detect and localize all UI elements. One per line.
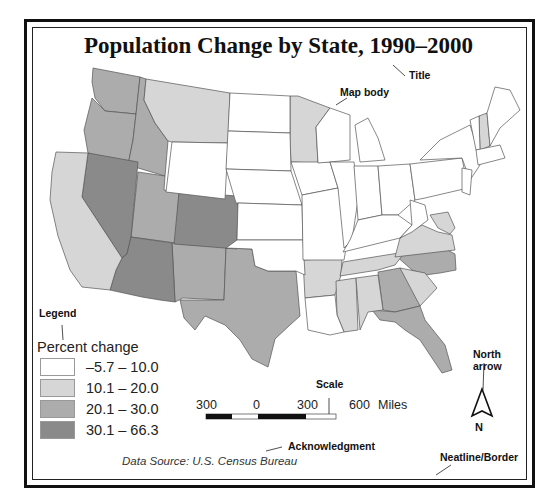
legend-title: Percent change	[37, 339, 139, 355]
scale-unit: Miles	[378, 398, 407, 412]
state-michigan	[355, 118, 385, 162]
callout-legend: Legend	[39, 307, 76, 319]
state-nebraska	[226, 169, 302, 205]
state-florida	[372, 306, 452, 373]
state-new-mexico	[172, 243, 226, 302]
state-north-dakota	[228, 93, 290, 133]
state-new-jersey	[462, 168, 472, 195]
state-alabama	[356, 275, 383, 330]
state-colorado	[174, 192, 238, 249]
state-kansas	[237, 203, 303, 240]
state-ohio	[378, 164, 415, 215]
callout-north-line2: arrow	[473, 360, 502, 372]
legend-item: –5.7 – 10.0	[40, 357, 159, 376]
legend-label: 20.1 – 30.0	[86, 401, 159, 417]
callout-neatline: Neatline/Border	[440, 451, 518, 463]
north-arrow-icon	[472, 389, 492, 416]
legend-label: 10.1 – 20.0	[86, 380, 159, 396]
state-maine	[487, 87, 520, 146]
legend-swatch	[40, 400, 75, 418]
state-south-dakota	[226, 131, 291, 171]
legend-swatch	[40, 379, 75, 397]
legend-swatch	[40, 421, 75, 439]
scale-tick: 0	[253, 398, 260, 412]
scale-bar	[206, 414, 336, 419]
scale-tick: 300	[196, 398, 217, 412]
legend-swatch	[40, 358, 75, 376]
legend-label: 30.1 – 66.3	[86, 422, 159, 438]
callout-map-body: Map body	[340, 86, 389, 98]
scale-tick: 600	[349, 398, 370, 412]
data-source: Data Source: U.S. Census Bureau	[122, 455, 297, 467]
legend-label: –5.7 – 10.0	[86, 359, 159, 375]
state-indiana	[354, 166, 382, 220]
callout-north-line1: North	[473, 348, 501, 360]
legend-item: 30.1 – 66.3	[40, 420, 159, 439]
state-pennsylvania	[410, 158, 468, 200]
legend-item: 10.1 – 20.0	[40, 378, 159, 397]
callout-scale: Scale	[316, 378, 343, 390]
callout-title: Title	[409, 69, 430, 81]
state-wyoming	[166, 142, 228, 199]
scale-tick: 300	[297, 398, 318, 412]
north-label: N	[475, 421, 483, 433]
callout-acknowledgment: Acknowledgment	[288, 440, 375, 452]
legend-item: 20.1 – 30.0	[40, 399, 159, 418]
